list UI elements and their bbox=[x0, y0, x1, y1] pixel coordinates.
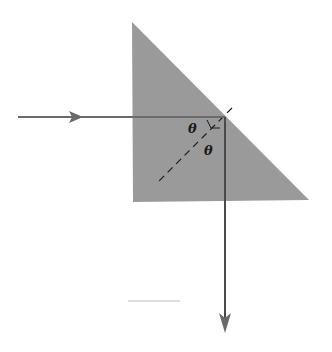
angle-label-reflected: θ bbox=[204, 143, 213, 158]
angle-label-incident: θ bbox=[188, 121, 197, 136]
prism-diagram: θ θ bbox=[0, 0, 332, 352]
prism bbox=[132, 22, 309, 202]
